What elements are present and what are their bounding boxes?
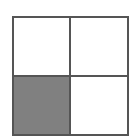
- grid-cell-bottom-right: [71, 77, 127, 134]
- two-by-two-grid: [12, 16, 129, 136]
- grid-cell-bottom-left-shaded: [14, 77, 71, 134]
- grid-cell-top-right: [71, 18, 127, 77]
- grid-cell-top-left: [14, 18, 71, 77]
